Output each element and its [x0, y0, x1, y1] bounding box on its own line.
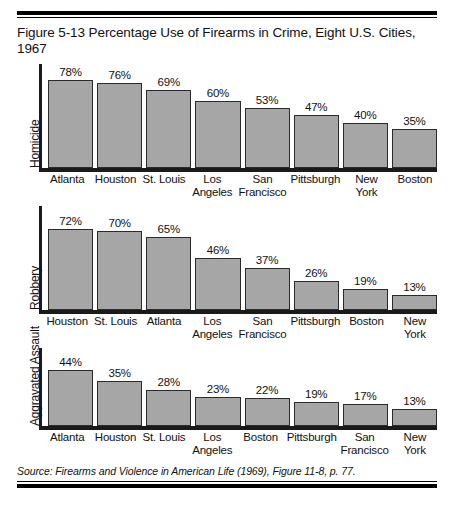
bar-slot: 60% [195, 64, 240, 168]
x-axis-category-label: Atlanta [45, 173, 89, 198]
bar-slot: 26% [294, 206, 339, 310]
chart-robbery: Robbery 72%70%65%46%37%26%19%13% Houston… [17, 206, 437, 340]
x-axis-categories-homicide: AtlantaHoustonSt. LouisLos AngelesSan Fr… [45, 173, 437, 198]
bar-slot: 46% [195, 206, 240, 310]
bar-value-label: 70% [97, 217, 142, 230]
bar-value-label: 47% [294, 101, 339, 114]
bar-rect [343, 404, 388, 426]
x-axis-line-homicide [39, 168, 437, 172]
bar-value-label: 35% [392, 115, 437, 128]
bar-value-label: 17% [343, 390, 388, 403]
bar-rect [294, 281, 339, 310]
bar-slot: 13% [392, 206, 437, 310]
bar-rect [343, 123, 388, 168]
bar-rect [97, 381, 142, 426]
x-axis-category-label: Boston [238, 431, 282, 456]
bar-slot: 19% [294, 348, 339, 426]
x-axis-category-label: St. Louis [142, 173, 186, 198]
bar-slot: 37% [245, 206, 290, 310]
x-axis-line-aggravated-assault [39, 426, 437, 430]
bar-rect [294, 115, 339, 168]
bar-rect [146, 390, 191, 426]
x-axis-category-label: San Francisco [341, 431, 389, 456]
bar-rect [48, 229, 93, 310]
x-axis-category-label: New York [393, 431, 437, 456]
y-axis-label-robbery: Robbery [29, 266, 41, 310]
x-axis-categories-aggravated-assault: AtlantaHoustonSt. LouisLos AngelesBoston… [45, 431, 437, 456]
top-rule-thin [17, 17, 437, 18]
x-axis-category-label: Los Angeles [190, 431, 234, 456]
x-axis-category-label: Pittsburgh [290, 315, 340, 340]
plot-area-aggravated-assault: Aggravated Assault 44%35%28%23%22%19%17%… [39, 348, 437, 426]
bar-group-homicide: 78%76%69%60%53%47%40%35% [45, 64, 437, 168]
bottom-rule-thick [17, 484, 437, 488]
x-axis-category-label: New York [393, 315, 437, 340]
bar-slot: 72% [48, 206, 93, 310]
chart-homicide: Homicide 78%76%69%60%53%47%40%35% Atlant… [17, 64, 437, 198]
x-axis-category-label: Atlanta [142, 315, 186, 340]
bar-value-label: 35% [97, 367, 142, 380]
bar-value-label: 22% [245, 384, 290, 397]
bar-group-robbery: 72%70%65%46%37%26%19%13% [45, 206, 437, 310]
bar-slot: 35% [97, 348, 142, 426]
x-axis-category-label: San Francisco [238, 173, 286, 198]
bar-slot: 22% [245, 348, 290, 426]
bar-value-label: 44% [48, 356, 93, 369]
bar-value-label: 19% [343, 275, 388, 288]
x-axis-categories-robbery: HoustonSt. LouisAtlantaLos AngelesSan Fr… [45, 315, 437, 340]
bar-slot: 19% [343, 206, 388, 310]
bar-value-label: 37% [245, 254, 290, 267]
x-axis-category-label: Boston [344, 315, 388, 340]
bar-rect [245, 108, 290, 168]
figure-source: Source: Firearms and Violence in America… [17, 465, 437, 477]
bar-value-label: 65% [146, 223, 191, 236]
bar-slot: 78% [48, 64, 93, 168]
bar-rect [195, 397, 240, 426]
figure-container: Figure 5-13 Percentage Use of Firearms i… [0, 11, 454, 532]
bar-value-label: 69% [146, 76, 191, 89]
bottom-rule-thin [17, 481, 437, 482]
bar-slot: 23% [195, 348, 240, 426]
chart-aggravated-assault: Aggravated Assault 44%35%28%23%22%19%17%… [17, 348, 437, 456]
bar-slot: 13% [392, 348, 437, 426]
bar-value-label: 26% [294, 267, 339, 280]
bar-value-label: 46% [195, 244, 240, 257]
bar-slot: 28% [146, 348, 191, 426]
figure-title: Figure 5-13 Percentage Use of Firearms i… [17, 25, 437, 56]
bar-value-label: 72% [48, 215, 93, 228]
bar-rect [146, 90, 191, 168]
bar-value-label: 76% [97, 69, 142, 82]
bar-rect [245, 268, 290, 310]
bar-slot: 65% [146, 206, 191, 310]
x-axis-category-label: St. Louis [93, 315, 137, 340]
bar-value-label: 53% [245, 94, 290, 107]
x-axis-category-label: Houston [45, 315, 89, 340]
bar-value-label: 78% [48, 66, 93, 79]
bar-value-label: 60% [195, 87, 240, 100]
bar-rect [294, 402, 339, 426]
bar-value-label: 23% [195, 383, 240, 396]
bar-slot: 76% [97, 64, 142, 168]
bar-slot: 44% [48, 348, 93, 426]
bar-slot: 47% [294, 64, 339, 168]
bar-slot: 70% [97, 206, 142, 310]
x-axis-category-label: Pittsburgh [290, 173, 340, 198]
top-rule-thick [17, 11, 437, 15]
bar-value-label: 19% [294, 388, 339, 401]
bar-slot: 69% [146, 64, 191, 168]
y-axis-label-homicide: Homicide [29, 120, 41, 168]
x-axis-category-label: San Francisco [238, 315, 286, 340]
x-axis-category-label: New York [344, 173, 388, 198]
bar-rect [245, 398, 290, 426]
bar-value-label: 13% [392, 281, 437, 294]
bar-slot: 17% [343, 348, 388, 426]
bar-rect [392, 409, 437, 426]
bar-rect [48, 80, 93, 168]
plot-area-robbery: Robbery 72%70%65%46%37%26%19%13% [39, 206, 437, 310]
bar-rect [146, 237, 191, 310]
bar-rect [48, 370, 93, 426]
x-axis-category-label: Houston [93, 431, 137, 456]
plot-area-homicide: Homicide 78%76%69%60%53%47%40%35% [39, 64, 437, 168]
bar-slot: 35% [392, 64, 437, 168]
bar-rect [392, 129, 437, 168]
